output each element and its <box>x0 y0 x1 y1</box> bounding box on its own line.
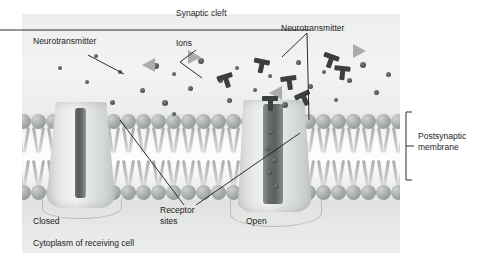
ion <box>334 98 338 102</box>
phospholipid <box>151 160 166 200</box>
figure-root: Synaptic cleft Neurotransmitter Ions Neu… <box>0 0 492 267</box>
phospholipid <box>361 160 376 200</box>
ion <box>172 72 176 76</box>
label-cytoplasm: Cytoplasm of receiving cell <box>33 238 134 249</box>
ion <box>374 90 379 95</box>
phospholipid <box>22 160 31 200</box>
phospholipid <box>136 160 151 200</box>
phospholipid <box>331 160 346 200</box>
label-postsynaptic-membrane: Postsynaptic membrane <box>418 131 466 152</box>
phospholipid <box>22 114 31 154</box>
ion-in-channel <box>272 158 277 163</box>
phospholipid <box>181 160 196 200</box>
phospholipid <box>196 114 211 154</box>
phospholipid <box>211 114 226 154</box>
illustration-panel <box>22 14 400 253</box>
vesicle-triangle <box>353 44 366 58</box>
ion <box>110 100 115 105</box>
vesicle-triangle <box>188 50 201 64</box>
open-ion-channel[interactable] <box>236 100 312 212</box>
label-neurotransmitter-left: Neurotransmitter <box>33 36 96 47</box>
vesicle-triangle <box>142 58 155 72</box>
phospholipid <box>316 160 331 200</box>
ion-in-channel <box>268 130 273 135</box>
ion-in-channel <box>267 170 272 175</box>
ion <box>227 98 232 103</box>
neurotransmitter <box>280 75 298 91</box>
ion <box>85 80 89 84</box>
ion-in-channel <box>274 184 279 189</box>
phospholipid <box>31 114 46 154</box>
label-neurotransmitter-right: Neurotransmitter <box>281 23 344 34</box>
phospholipid <box>331 114 346 154</box>
label-synaptic-cleft: Synaptic cleft <box>176 8 227 19</box>
phospholipid <box>166 114 181 154</box>
label-ions: Ions <box>176 38 192 49</box>
phospholipid <box>151 114 166 154</box>
closed-ion-channel[interactable] <box>46 102 116 208</box>
phospholipid <box>376 114 391 154</box>
ion <box>94 54 98 58</box>
phospholipid <box>391 114 400 154</box>
phospholipid <box>121 160 136 200</box>
phospholipid <box>211 160 226 200</box>
label-receptor-sites: Receptor sites <box>160 205 195 226</box>
phospholipid <box>346 114 361 154</box>
ion <box>268 74 272 78</box>
label-closed: Closed <box>33 216 59 227</box>
ion <box>322 70 326 74</box>
ion <box>172 112 176 116</box>
bound-neurotransmitter <box>262 96 278 110</box>
ion <box>118 70 122 74</box>
phospholipid <box>391 160 400 200</box>
ion-in-channel <box>265 146 270 151</box>
ion <box>162 100 168 106</box>
ion <box>253 88 257 92</box>
phospholipid <box>346 160 361 200</box>
ion <box>282 102 288 108</box>
phospholipid <box>196 160 211 200</box>
neurotransmitter <box>333 65 350 81</box>
phospholipid <box>31 160 46 200</box>
phospholipid <box>361 114 376 154</box>
phospholipid <box>316 114 331 154</box>
ion <box>360 62 366 68</box>
ion <box>296 60 301 65</box>
ion <box>308 84 313 89</box>
ion <box>140 88 145 93</box>
phospholipid <box>376 160 391 200</box>
neurotransmitter <box>252 57 271 74</box>
ion <box>386 72 391 77</box>
phospholipid <box>166 160 181 200</box>
label-open: Open <box>246 216 267 227</box>
phospholipid <box>121 114 136 154</box>
phospholipid <box>181 114 196 154</box>
ion <box>235 66 239 70</box>
phospholipid <box>136 114 151 154</box>
ion <box>188 86 193 91</box>
ion <box>58 66 62 70</box>
